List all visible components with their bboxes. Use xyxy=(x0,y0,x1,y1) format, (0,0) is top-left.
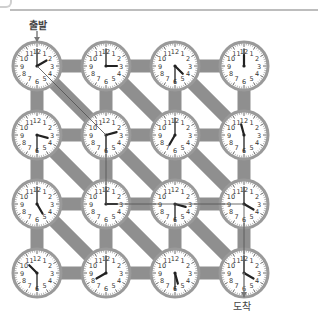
svg-text:8: 8 xyxy=(22,139,26,147)
svg-text:5: 5 xyxy=(42,213,46,221)
svg-text:7: 7 xyxy=(27,144,31,152)
svg-text:8: 8 xyxy=(229,70,233,78)
svg-text:8: 8 xyxy=(22,277,26,285)
svg-text:4: 4 xyxy=(255,208,259,216)
svg-text:5: 5 xyxy=(111,144,115,152)
svg-text:1: 1 xyxy=(111,188,115,196)
svg-text:9: 9 xyxy=(227,63,231,71)
svg-text:5: 5 xyxy=(249,144,253,152)
svg-text:11: 11 xyxy=(94,188,102,196)
svg-text:12: 12 xyxy=(102,117,110,125)
svg-text:1: 1 xyxy=(180,188,184,196)
svg-text:5: 5 xyxy=(249,282,253,290)
svg-text:12: 12 xyxy=(33,255,41,263)
svg-text:12: 12 xyxy=(33,117,41,125)
svg-text:5: 5 xyxy=(111,282,115,290)
svg-text:5: 5 xyxy=(249,75,253,83)
svg-text:4: 4 xyxy=(255,277,259,285)
svg-text:11: 11 xyxy=(25,119,33,127)
clock: 121234567891011 xyxy=(151,42,199,90)
svg-text:8: 8 xyxy=(22,208,26,216)
svg-text:5: 5 xyxy=(180,144,184,152)
svg-text:12: 12 xyxy=(171,48,179,56)
clock: 121234567891011 xyxy=(220,42,268,90)
svg-text:6: 6 xyxy=(35,216,39,224)
svg-text:11: 11 xyxy=(232,119,240,127)
svg-text:6: 6 xyxy=(173,147,177,155)
svg-text:4: 4 xyxy=(255,70,259,78)
svg-text:7: 7 xyxy=(165,144,169,152)
svg-text:11: 11 xyxy=(25,188,33,196)
svg-text:5: 5 xyxy=(111,75,115,83)
svg-text:1: 1 xyxy=(180,50,184,58)
svg-text:1: 1 xyxy=(249,119,253,127)
svg-text:1: 1 xyxy=(111,119,115,127)
clock: 121234567891011 xyxy=(13,180,61,228)
svg-text:5: 5 xyxy=(42,144,46,152)
svg-text:8: 8 xyxy=(91,139,95,147)
svg-text:9: 9 xyxy=(20,132,24,140)
svg-text:7: 7 xyxy=(96,75,100,83)
svg-text:1: 1 xyxy=(42,50,46,58)
svg-text:9: 9 xyxy=(227,132,231,140)
svg-text:9: 9 xyxy=(89,63,93,71)
svg-text:12: 12 xyxy=(171,186,179,194)
svg-text:4: 4 xyxy=(117,208,121,216)
clock: 121234567891011 xyxy=(13,249,61,297)
svg-text:11: 11 xyxy=(163,50,171,58)
svg-text:8: 8 xyxy=(91,277,95,285)
svg-text:11: 11 xyxy=(25,257,33,265)
svg-text:11: 11 xyxy=(232,188,240,196)
svg-text:5: 5 xyxy=(42,282,46,290)
svg-text:1: 1 xyxy=(180,119,184,127)
svg-text:11: 11 xyxy=(163,188,171,196)
clock: 121234567891011 xyxy=(82,42,130,90)
svg-text:1: 1 xyxy=(111,50,115,58)
svg-text:6: 6 xyxy=(104,78,108,86)
svg-text:7: 7 xyxy=(234,282,238,290)
svg-text:6: 6 xyxy=(242,78,246,86)
svg-text:7: 7 xyxy=(96,144,100,152)
svg-text:4: 4 xyxy=(186,139,190,147)
svg-text:4: 4 xyxy=(186,70,190,78)
svg-text:7: 7 xyxy=(165,75,169,83)
clock: 121234567891011 xyxy=(220,111,268,159)
svg-text:8: 8 xyxy=(229,139,233,147)
svg-text:7: 7 xyxy=(27,282,31,290)
svg-text:1: 1 xyxy=(249,50,253,58)
svg-text:1: 1 xyxy=(42,119,46,127)
svg-text:8: 8 xyxy=(22,70,26,78)
svg-text:11: 11 xyxy=(94,50,102,58)
svg-text:4: 4 xyxy=(117,139,121,147)
svg-text:4: 4 xyxy=(48,277,52,285)
svg-text:11: 11 xyxy=(232,257,240,265)
clock: 121234567891011 xyxy=(13,111,61,159)
svg-text:1: 1 xyxy=(180,257,184,265)
clock: 121234567891011 xyxy=(82,249,130,297)
svg-text:1: 1 xyxy=(42,257,46,265)
svg-text:8: 8 xyxy=(91,70,95,78)
svg-text:8: 8 xyxy=(160,277,164,285)
svg-text:4: 4 xyxy=(186,208,190,216)
clock-maze-diagram: 1212345678910111212345678910111212345678… xyxy=(0,0,318,318)
svg-text:4: 4 xyxy=(255,139,259,147)
svg-text:4: 4 xyxy=(117,70,121,78)
svg-text:1: 1 xyxy=(111,257,115,265)
svg-text:9: 9 xyxy=(20,201,24,209)
svg-text:11: 11 xyxy=(163,119,171,127)
svg-text:8: 8 xyxy=(160,139,164,147)
clock: 121234567891011 xyxy=(151,249,199,297)
svg-text:8: 8 xyxy=(229,277,233,285)
svg-text:1: 1 xyxy=(249,257,253,265)
svg-text:9: 9 xyxy=(89,132,93,140)
svg-text:8: 8 xyxy=(160,70,164,78)
svg-text:8: 8 xyxy=(229,208,233,216)
svg-text:5: 5 xyxy=(111,213,115,221)
svg-text:11: 11 xyxy=(163,257,171,265)
svg-text:9: 9 xyxy=(89,201,93,209)
svg-text:5: 5 xyxy=(180,213,184,221)
svg-text:5: 5 xyxy=(249,213,253,221)
svg-text:8: 8 xyxy=(91,208,95,216)
svg-text:5: 5 xyxy=(180,75,184,83)
svg-text:4: 4 xyxy=(48,70,52,78)
